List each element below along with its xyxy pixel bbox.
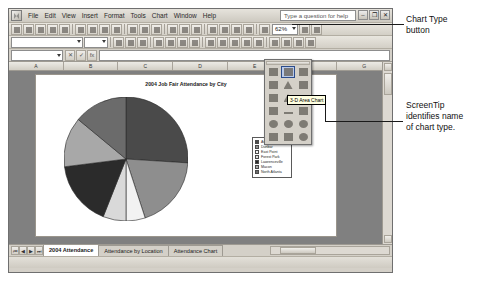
- cancel-formula-icon[interactable]: ✕: [65, 50, 75, 61]
- decrease-indent-icon[interactable]: [269, 37, 280, 48]
- chevron-down-icon[interactable]: [77, 40, 81, 43]
- next-sheet-icon[interactable]: ▶: [27, 246, 35, 255]
- minimize-button[interactable]: –: [358, 10, 368, 20]
- menu-item-view[interactable]: View: [59, 10, 79, 22]
- menu-item-file[interactable]: File: [25, 10, 41, 22]
- sort-descending-icon[interactable]: [231, 24, 242, 35]
- bold-icon[interactable]: [113, 37, 124, 48]
- column-header-a[interactable]: A: [9, 62, 64, 70]
- font-size-combo[interactable]: [84, 37, 108, 48]
- chevron-down-icon[interactable]: [102, 40, 106, 43]
- align-right-icon[interactable]: [177, 37, 188, 48]
- legend-item[interactable]: East Point: [255, 150, 289, 154]
- scrollbar-thumb[interactable]: [384, 73, 392, 95]
- enter-formula-icon[interactable]: ✓: [76, 50, 86, 61]
- redo-icon[interactable]: [179, 24, 190, 35]
- sheet-tab-2004-attendance[interactable]: 2004 Attendance: [43, 244, 99, 256]
- percent-style-icon[interactable]: [217, 37, 228, 48]
- menu-item-tools[interactable]: Tools: [128, 10, 149, 22]
- menu-item-insert[interactable]: Insert: [79, 10, 101, 22]
- legend-item[interactable]: Macon: [255, 165, 289, 169]
- sort-ascending-icon[interactable]: [219, 24, 230, 35]
- column-header-b[interactable]: B: [64, 62, 119, 70]
- chart-type-option[interactable]: [266, 92, 280, 104]
- drawing-icon[interactable]: [259, 24, 270, 35]
- legend-item[interactable]: Forest Park: [255, 155, 289, 159]
- undo-icon[interactable]: [167, 24, 178, 35]
- chart-type-option[interactable]: [281, 105, 295, 117]
- menu-item-help[interactable]: Help: [200, 10, 219, 22]
- autosum-icon[interactable]: [207, 24, 218, 35]
- align-left-icon[interactable]: [153, 37, 164, 48]
- comma-style-icon[interactable]: [229, 37, 240, 48]
- menu-item-chart[interactable]: Chart: [149, 10, 171, 22]
- print-icon[interactable]: [59, 24, 70, 35]
- chevron-down-icon[interactable]: [57, 54, 61, 57]
- chart-type-option[interactable]: [266, 118, 280, 130]
- align-center-icon[interactable]: [165, 37, 176, 48]
- restore-button[interactable]: ❐: [369, 10, 379, 20]
- horizontal-scrollbar[interactable]: [270, 246, 390, 255]
- pie-chart[interactable]: [64, 97, 188, 221]
- close-button[interactable]: ✕: [380, 10, 390, 20]
- chart-type-option[interactable]: [296, 66, 310, 78]
- save-icon[interactable]: [35, 24, 46, 35]
- font-color-icon[interactable]: [305, 37, 316, 48]
- italic-icon[interactable]: [125, 37, 136, 48]
- decrease-decimal-icon[interactable]: [253, 37, 264, 48]
- underline-icon[interactable]: [137, 37, 148, 48]
- chart-type-option[interactable]: [296, 79, 310, 91]
- chart-type-option[interactable]: [266, 131, 280, 143]
- scrollbar-thumb[interactable]: [280, 247, 316, 254]
- previous-sheet-icon[interactable]: ◀: [19, 246, 27, 255]
- chart-type-option[interactable]: [296, 118, 310, 130]
- chart-type-option[interactable]: [296, 105, 310, 117]
- paste-icon[interactable]: [139, 24, 150, 35]
- vertical-scrollbar[interactable]: [382, 62, 392, 244]
- new-icon[interactable]: [11, 24, 22, 35]
- chart-type-option[interactable]: [296, 131, 310, 143]
- permission-icon[interactable]: [47, 24, 58, 35]
- drag-handle[interactable]: [266, 61, 310, 65]
- open-icon[interactable]: [23, 24, 34, 35]
- scroll-down-icon[interactable]: [384, 235, 392, 243]
- chart-type-option[interactable]: [266, 66, 280, 78]
- toolbar-options-icon[interactable]: [311, 24, 322, 35]
- spelling-icon[interactable]: [87, 24, 98, 35]
- chart-type-option[interactable]: [281, 131, 295, 143]
- legend-item[interactable]: North Atlanta: [255, 170, 289, 174]
- sheet-tab-attendance-by-location[interactable]: Attendance by Location: [98, 245, 168, 256]
- column-header-c[interactable]: C: [118, 62, 173, 70]
- pie-slice[interactable]: [126, 97, 188, 163]
- legend-item[interactable]: Lawrenceville: [255, 160, 289, 164]
- menu-item-window[interactable]: Window: [171, 10, 200, 22]
- chart-type-option[interactable]: [266, 79, 280, 91]
- menu-item-edit[interactable]: Edit: [41, 10, 58, 22]
- help-icon[interactable]: [299, 24, 310, 35]
- sheet-tab-attendance-chart[interactable]: Attendance Chart: [168, 245, 224, 256]
- chevron-down-icon[interactable]: [292, 27, 296, 30]
- font-name-combo[interactable]: [11, 37, 83, 48]
- research-icon[interactable]: [99, 24, 110, 35]
- chart-wizard-icon[interactable]: [243, 24, 254, 35]
- insert-hyperlink-icon[interactable]: [191, 24, 202, 35]
- copy-icon[interactable]: [127, 24, 138, 35]
- print-preview-icon[interactable]: [75, 24, 86, 35]
- column-header-d[interactable]: D: [173, 62, 228, 70]
- ask-a-question-box[interactable]: Type a question for help: [280, 10, 356, 21]
- increase-decimal-icon[interactable]: [241, 37, 252, 48]
- borders-icon[interactable]: [281, 37, 292, 48]
- zoom-combo[interactable]: 62%: [272, 24, 298, 35]
- merge-and-center-icon[interactable]: [189, 37, 200, 48]
- chart-type-option[interactable]: [281, 79, 295, 91]
- chart-type-option[interactable]: [281, 118, 295, 130]
- last-sheet-icon[interactable]: ⏭: [35, 246, 43, 255]
- scroll-up-icon[interactable]: [384, 63, 392, 71]
- currency-style-icon[interactable]: [205, 37, 216, 48]
- formula-input[interactable]: [99, 50, 390, 61]
- format-painter-icon[interactable]: [151, 24, 162, 35]
- cut-icon[interactable]: [111, 24, 122, 35]
- chart-type-option[interactable]: [266, 105, 280, 117]
- menu-item-format[interactable]: Format: [101, 10, 128, 22]
- first-sheet-icon[interactable]: ⏮: [11, 246, 19, 255]
